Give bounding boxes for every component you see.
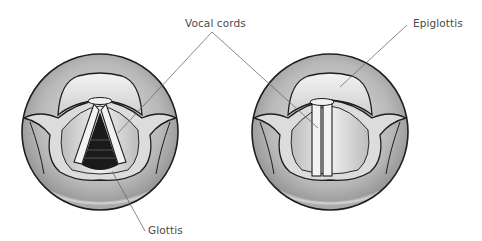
- vocal-cord-left: [312, 104, 321, 176]
- right-larynx-panel: [250, 52, 410, 214]
- epiglottis-label: Epiglottis: [413, 17, 463, 29]
- glottis-label: Glottis: [148, 224, 183, 236]
- larynx-diagram: Vocal cords Epiglottis Glottis: [0, 0, 482, 241]
- vocal-cord-right: [323, 104, 332, 176]
- vocal-cords-label: Vocal cords: [185, 17, 246, 29]
- left-larynx-panel: [20, 52, 180, 214]
